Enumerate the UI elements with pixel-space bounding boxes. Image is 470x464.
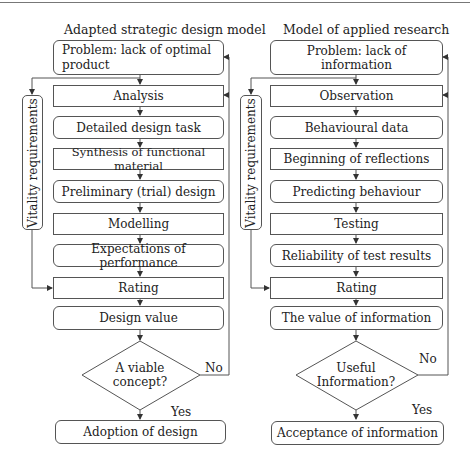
right-vitality-requirements: Vitality requirements xyxy=(240,95,262,230)
left-vitality-label: Vitality requirements xyxy=(26,98,40,227)
left-decision-label: A viable concept? xyxy=(100,361,180,389)
left-step-design-value: Design value xyxy=(53,306,224,330)
left-step-detailed-design-task: Detailed design task xyxy=(53,116,224,139)
right-step-reliability: Reliability of test results xyxy=(270,244,443,267)
left-outcome-box: Adoption of design xyxy=(55,420,226,444)
right-decision-label: Useful Information? xyxy=(311,361,401,389)
left-step-rating: Rating xyxy=(53,277,224,299)
left-step-analysis: Analysis xyxy=(53,85,224,107)
left-step-modelling: Modelling xyxy=(53,213,224,235)
left-step-synthesis: Synthesis of functional material xyxy=(53,148,224,170)
right-problem-box: Problem: lack of information xyxy=(270,40,443,75)
right-model-title: Model of applied research xyxy=(283,22,449,37)
right-step-value-of-information: The value of information xyxy=(270,306,443,330)
left-step-preliminary-design: Preliminary (trial) design xyxy=(53,180,224,203)
right-step-beginning-of-reflections: Beginning of reflections xyxy=(270,148,443,170)
right-step-predicting-behaviour: Predicting behaviour xyxy=(270,180,443,203)
right-step-behavioural-data: Behavioural data xyxy=(270,116,443,139)
right-no-label: No xyxy=(419,352,437,366)
right-step-rating: Rating xyxy=(270,277,443,299)
right-step-testing: Testing xyxy=(270,213,443,235)
left-no-label: No xyxy=(205,361,223,375)
left-yes-label: Yes xyxy=(171,405,191,419)
left-step-expectations: Expectations of performance xyxy=(53,244,224,267)
right-outcome-box: Acceptance of information xyxy=(271,421,444,445)
right-step-observation: Observation xyxy=(270,85,443,107)
left-vitality-requirements: Vitality requirements xyxy=(22,95,43,230)
left-model-title: Adapted strategic design model xyxy=(64,22,266,37)
left-problem-box: Problem: lack of optimal product xyxy=(53,40,224,75)
right-vitality-label: Vitality requirements xyxy=(244,98,258,227)
right-yes-label: Yes xyxy=(412,403,432,417)
